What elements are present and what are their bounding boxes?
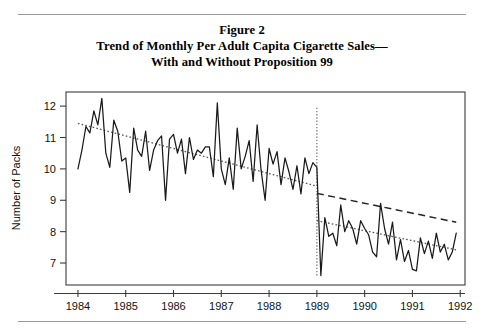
y-tick-label: 7 xyxy=(50,257,56,269)
x-axis-ticks: 198419851986198719881989199019911992 xyxy=(54,290,472,312)
x-tick-label: 1986 xyxy=(161,300,185,312)
x-tick-label: 1989 xyxy=(305,300,329,312)
figure-page: Figure 2 Trend of Monthly Per Adult Capi… xyxy=(0,0,484,333)
x-tick-label: 1991 xyxy=(400,300,424,312)
cigarette-sales-line-chart: 789101112 198419851986198719881989199019… xyxy=(0,84,484,321)
y-tick-label: 9 xyxy=(50,194,56,206)
y-axis-title: Number of Packs xyxy=(10,145,22,230)
x-tick-label: 1992 xyxy=(448,300,472,312)
bottom-divider-rule xyxy=(18,321,466,322)
figure-caption: Figure 2 Trend of Monthly Per Adult Capi… xyxy=(0,22,484,71)
x-tick-label: 1988 xyxy=(257,300,281,312)
y-tick-label: 8 xyxy=(50,226,56,238)
x-tick-label: 1985 xyxy=(113,300,137,312)
x-tick-label: 1987 xyxy=(209,300,233,312)
x-tick-label: 1984 xyxy=(66,300,90,312)
x-tick-label: 1990 xyxy=(352,300,376,312)
top-divider-rule xyxy=(18,14,466,15)
chart-area: 789101112 198419851986198719881989199019… xyxy=(0,84,484,321)
caption-line-1: Figure 2 xyxy=(0,22,484,38)
y-tick-label: 10 xyxy=(44,163,56,175)
y-tick-label: 11 xyxy=(45,132,56,144)
y-tick-label: 12 xyxy=(44,100,56,112)
caption-line-2: Trend of Monthly Per Adult Capita Cigare… xyxy=(0,38,484,54)
y-axis-ticks: 789101112 xyxy=(44,100,66,269)
caption-line-3: With and Without Proposition 99 xyxy=(0,54,484,70)
